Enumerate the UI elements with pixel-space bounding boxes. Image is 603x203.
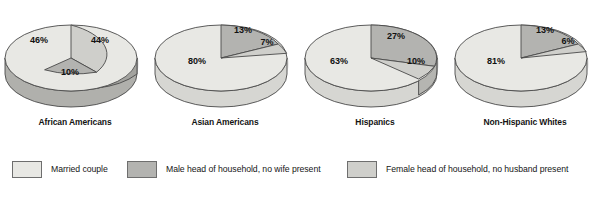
pie-chart-title-asian-americans: Asian Americans: [150, 117, 300, 127]
pie-chart-title-non-hispanic-whites: Non-Hispanic Whites: [450, 117, 600, 127]
slice-label-female-head: 10%: [407, 56, 425, 66]
pie-chart-title-african-americans: African Americans: [0, 117, 150, 127]
pie-chart-hispanics-graphic: 63% 27% 10%: [300, 2, 450, 114]
slice-label-female-head: 7%: [260, 37, 273, 47]
legend: Married couple Male head of household, n…: [0, 158, 603, 188]
legend-item-married-couple: Married couple: [12, 158, 108, 180]
pie-chart-african-americans: 46% 44% 10% African Americans: [0, 0, 150, 140]
legend-label-male-head: Male head of household, no wife present: [166, 164, 321, 174]
slice-label-female-head: 44%: [91, 35, 109, 45]
pie-chart-asian-americans: 80% 13% 7% Asian Americans: [150, 0, 300, 140]
slice-label-female-head: 6%: [561, 36, 574, 46]
slice-label-married: 81%: [487, 56, 505, 66]
pie-chart-non-hispanic-whites-graphic: 81% 13% 6%: [450, 2, 600, 114]
pie-chart-asian-americans-graphic: 80% 13% 7%: [150, 2, 300, 114]
pie-chart-hispanics: 63% 27% 10% Hispanics: [300, 0, 450, 140]
legend-swatch-male-head: [127, 161, 157, 178]
legend-item-male-head: Male head of household, no wife present: [127, 158, 321, 180]
legend-item-female-head: Female head of household, no husband pre…: [347, 158, 568, 180]
legend-swatch-female-head: [347, 161, 377, 178]
pie-charts-row: 46% 44% 10% African Americans 80% 13% 7%…: [0, 0, 603, 140]
legend-label-married-couple: Married couple: [51, 164, 108, 174]
pie-chart-non-hispanic-whites: 81% 13% 6% Non-Hispanic Whites: [450, 0, 600, 140]
slice-label-male-head: 10%: [61, 67, 79, 77]
slice-label-male-head: 27%: [387, 31, 405, 41]
slice-label-male-head: 13%: [234, 25, 252, 35]
legend-swatch-married-couple: [12, 161, 42, 178]
slice-label-married: 46%: [30, 35, 48, 45]
legend-label-female-head: Female head of household, no husband pre…: [386, 164, 568, 174]
slice-label-married: 80%: [188, 56, 206, 66]
slice-label-male-head: 13%: [536, 25, 554, 35]
pie-chart-title-hispanics: Hispanics: [300, 117, 450, 127]
pie-chart-african-americans-graphic: 46% 44% 10%: [0, 2, 150, 114]
slice-label-married: 63%: [330, 56, 348, 66]
